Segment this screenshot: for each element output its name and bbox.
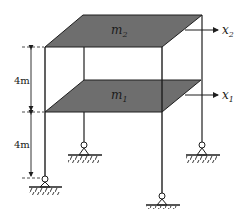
dimension-upper-story: 4m: [14, 47, 44, 110]
displacement-x2: x2: [185, 23, 234, 39]
support-back-left: [68, 142, 102, 163]
support-front-left: [29, 176, 62, 195]
displacement-label-x2: x2: [222, 23, 234, 39]
front-columns: [45, 47, 162, 193]
displacement-label-x1: x1: [222, 88, 234, 104]
dimension-label-upper: 4m: [14, 75, 30, 86]
upper-slab-m2: m2: [45, 15, 202, 47]
support-back-right: [186, 142, 220, 163]
support-front-right: [146, 193, 180, 209]
lower-slab-m1: m1: [45, 80, 201, 112]
shear-frame-diagram: m2 m1 x2: [0, 0, 246, 209]
displacement-x1: x1: [185, 88, 234, 104]
dimension-lower-story: 4m: [14, 112, 44, 178]
dimension-label-lower: 4m: [14, 139, 30, 150]
